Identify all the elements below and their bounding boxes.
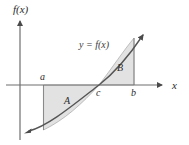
curve-label: y = f(x) bbox=[78, 39, 110, 51]
y-axis-label: f(x) bbox=[13, 3, 29, 16]
region-label-A: A bbox=[63, 95, 71, 106]
x-axis-label: x bbox=[171, 79, 177, 91]
signed-area-diagram: f(x) x y = f(x) a c b A B bbox=[0, 0, 189, 145]
region-label-B: B bbox=[117, 62, 123, 73]
curve-left-arrowhead bbox=[24, 129, 32, 134]
figure-container: f(x) x y = f(x) a c b A B bbox=[0, 0, 189, 145]
point-label-a: a bbox=[40, 71, 45, 82]
point-label-c: c bbox=[96, 87, 101, 98]
point-label-b: b bbox=[131, 87, 136, 98]
